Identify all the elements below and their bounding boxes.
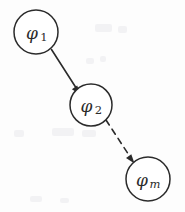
edge-line-solid xyxy=(52,50,77,89)
chain-diagram: φ 1 φ 2 φ m xyxy=(0,0,185,212)
node-subscript-phi-2: 2 xyxy=(95,103,102,117)
node-phi-1[interactable]: φ 1 xyxy=(14,10,58,54)
node-subscript-phi-m: m xyxy=(150,177,161,191)
node-label-phi-m: φ xyxy=(136,170,148,190)
figure-root: φ 1 φ 2 φ m xyxy=(0,0,185,212)
node-phi-2[interactable]: φ 2 xyxy=(70,84,112,126)
edge-line-dashed xyxy=(106,120,131,158)
node-phi-m[interactable]: φ m xyxy=(126,157,170,201)
edge-phi1-to-phi2 xyxy=(52,50,81,95)
node-label-phi-1: φ xyxy=(26,23,38,43)
edge-phi2-to-phim xyxy=(106,120,135,164)
node-subscript-phi-1: 1 xyxy=(40,30,47,44)
node-label-phi-2: φ xyxy=(81,96,93,116)
node-circle-phi-m[interactable] xyxy=(126,157,170,201)
